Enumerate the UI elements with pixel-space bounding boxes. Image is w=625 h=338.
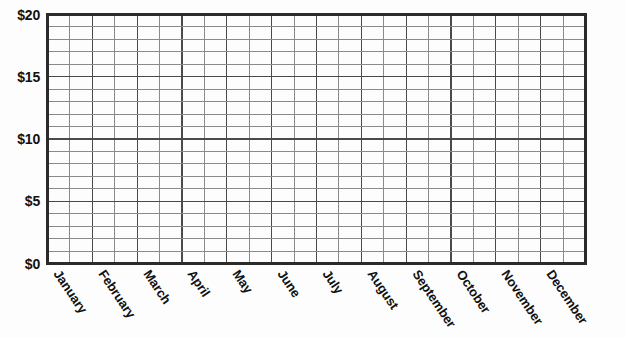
y-axis-tick-label: $0 [0, 256, 40, 272]
y-axis-tick-label: $10 [0, 131, 40, 147]
y-axis-tick-label: $20 [0, 7, 40, 23]
y-axis-tick-label: $5 [0, 193, 40, 209]
y-axis-tick-label: $15 [0, 69, 40, 85]
chart-background [0, 0, 625, 338]
plot-area [0, 0, 625, 338]
chart-container: $20$15$10$5$0 JanuaryFebruaryMarchAprilM… [0, 0, 625, 338]
